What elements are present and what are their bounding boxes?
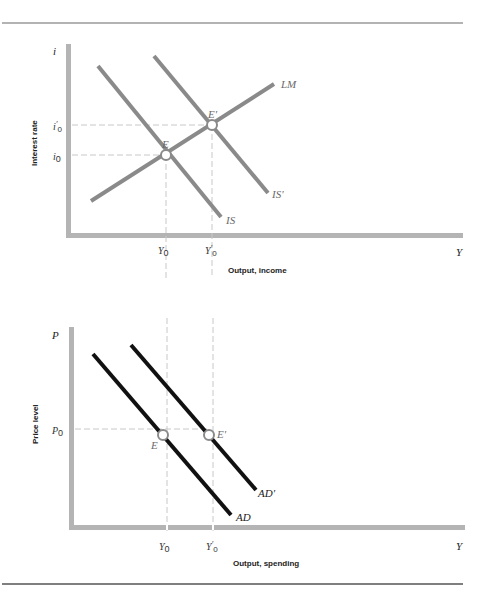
ad-axis-gap-y0prime bbox=[212, 525, 214, 530]
islm-y-title: Interest rate bbox=[30, 120, 39, 166]
diagram-canvas: E E' LM IS' IS i Y i′0 i0 Y0 Y′0 Output,… bbox=[0, 0, 493, 589]
ad-tick-y0-prime: Y′0 bbox=[206, 540, 218, 554]
islm-tick-i0-prime: i′0 bbox=[53, 120, 63, 134]
is-curve bbox=[98, 66, 221, 217]
islm-y-symbol: i bbox=[53, 45, 56, 57]
islm-x-axis bbox=[66, 233, 463, 238]
ad-y-symbol: P bbox=[51, 329, 59, 341]
ad-e-label: E bbox=[150, 439, 158, 451]
islm-x-title: Output, income bbox=[228, 266, 287, 275]
ad-equilibrium-e-prime bbox=[204, 430, 214, 440]
islm-x-symbol: Y bbox=[456, 246, 464, 258]
ad-e-prime-label: E' bbox=[216, 428, 227, 440]
ad-prime-label: AD' bbox=[257, 487, 276, 499]
lm-curve bbox=[91, 84, 274, 201]
ad-panel: E E' AD' AD P Y P0 Y0 Y′0 Output, spendi… bbox=[31, 318, 465, 568]
is-prime-label: IS' bbox=[271, 188, 284, 200]
islm-e-prime-label: E' bbox=[207, 108, 218, 120]
is-label: IS bbox=[225, 214, 236, 226]
ad-y-axis bbox=[69, 327, 74, 530]
ad-tick-y0: Y0 bbox=[159, 541, 170, 554]
ad-equilibrium-e bbox=[158, 430, 168, 440]
ad-x-axis bbox=[69, 525, 465, 530]
ad-x-symbol: Y bbox=[456, 540, 464, 552]
islm-equilibrium-e-prime bbox=[207, 120, 217, 130]
islm-tick-i0: i0 bbox=[53, 151, 61, 164]
islm-y-axis bbox=[66, 44, 71, 238]
islm-panel: E E' LM IS' IS i Y i′0 i0 Y0 Y′0 Output,… bbox=[30, 44, 464, 278]
ad-tick-p0: P0 bbox=[51, 425, 63, 438]
ad-y-title: Price level bbox=[31, 404, 40, 444]
islm-e-label: E bbox=[161, 138, 169, 150]
islm-equilibrium-e bbox=[161, 150, 171, 160]
lm-label: LM bbox=[280, 78, 297, 90]
ad-axis-gap-y0 bbox=[166, 525, 168, 530]
ad-x-title: Output, spending bbox=[233, 559, 299, 568]
ad-label: AD bbox=[235, 511, 251, 523]
islm-tick-y0-prime: Y′0 bbox=[205, 244, 217, 258]
islm-tick-y0: Y0 bbox=[158, 245, 169, 258]
